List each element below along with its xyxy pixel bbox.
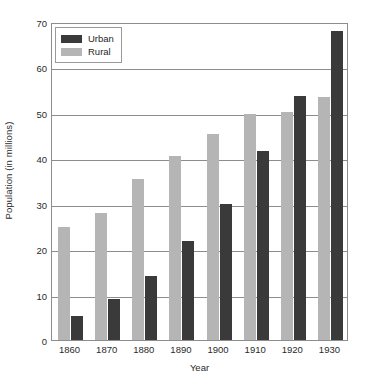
bar-group <box>95 24 120 340</box>
bar-group <box>169 24 194 340</box>
plot-area: Urban Rural <box>51 23 348 341</box>
bar-series-container <box>52 24 347 340</box>
bar-rural <box>95 213 107 340</box>
y-axis-tick-label: 40 <box>36 154 47 165</box>
x-axis-tick-label: 1900 <box>207 344 228 355</box>
legend-label-rural: Rural <box>88 46 111 57</box>
y-axis-tick-label: 60 <box>36 63 47 74</box>
bar-rural <box>132 179 144 340</box>
y-axis-tick-label: 10 <box>36 290 47 301</box>
legend: Urban Rural <box>55 27 122 63</box>
legend-swatch-rural-icon <box>61 48 82 56</box>
legend-label-urban: Urban <box>88 33 114 44</box>
bar-rural <box>58 227 70 340</box>
y-axis-tick-labels: 010203040506070 <box>18 0 51 389</box>
bar-urban <box>220 204 232 340</box>
bar-chart: Population (in millions) 010203040506070… <box>0 0 367 389</box>
y-axis-tick-label: 50 <box>36 108 47 119</box>
bar-urban <box>294 96 306 340</box>
bar-urban <box>145 276 157 340</box>
y-axis-tick-label: 70 <box>36 18 47 29</box>
bar-rural <box>169 156 181 340</box>
bar-urban <box>257 151 269 340</box>
bar-group <box>318 24 343 340</box>
y-axis-title-text: Population (in millions) <box>4 122 15 220</box>
x-axis-tick-label: 1920 <box>282 344 303 355</box>
bar-rural <box>244 114 256 340</box>
bar-urban <box>331 31 343 340</box>
bar-urban <box>108 299 120 340</box>
bar-group <box>58 24 83 340</box>
y-axis-title: Population (in millions) <box>0 0 18 341</box>
y-axis-tick-label: 20 <box>36 245 47 256</box>
bar-rural <box>318 97 330 340</box>
x-axis-tick-label: 1880 <box>133 344 154 355</box>
bar-group <box>207 24 232 340</box>
y-axis-tick-label: 30 <box>36 199 47 210</box>
x-axis-tick-label: 1910 <box>245 344 266 355</box>
bar-group <box>281 24 306 340</box>
bar-group <box>132 24 157 340</box>
x-axis-title: Year <box>51 362 348 373</box>
legend-item-urban: Urban <box>61 32 114 45</box>
y-axis-tick-label: 0 <box>42 336 47 347</box>
x-axis-tick-label: 1860 <box>59 344 80 355</box>
legend-item-rural: Rural <box>61 45 114 58</box>
bar-urban <box>182 241 194 340</box>
x-axis-tick-label: 1890 <box>170 344 191 355</box>
bar-group <box>244 24 269 340</box>
legend-swatch-urban-icon <box>61 35 82 43</box>
bar-rural <box>207 134 219 340</box>
x-axis-tick-label: 1930 <box>319 344 340 355</box>
bar-urban <box>71 316 83 340</box>
x-axis-tick-labels: 18601870188018901900191019201930 <box>51 344 348 360</box>
bar-rural <box>281 112 293 341</box>
x-axis-tick-label: 1870 <box>96 344 117 355</box>
